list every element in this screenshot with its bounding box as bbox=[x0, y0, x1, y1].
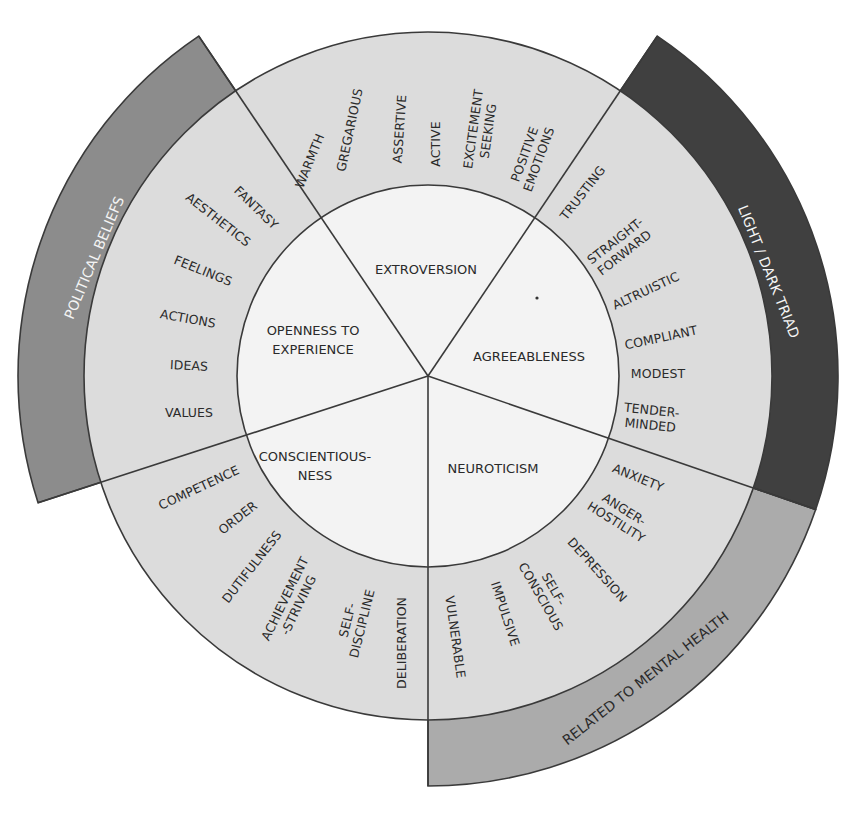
domain-label-neuroticism: NEUROTICISM bbox=[448, 461, 539, 476]
facet-label-deliberation: DELIBERATION bbox=[394, 597, 409, 689]
domain-label-extroversion: EXTROVERSION bbox=[375, 262, 477, 277]
facet-label-tender-minded: TENDER-MINDED bbox=[621, 399, 681, 435]
personality-wheel: POLITICAL BELIEFSLIGHT / DARK TRIADRELAT… bbox=[0, 0, 847, 816]
facet-label-modest: MODEST bbox=[631, 366, 686, 381]
facet-label-ideas: IDEAS bbox=[170, 357, 209, 374]
facet-label-active: ACTIVE bbox=[428, 121, 443, 166]
facet-label-values: VALUES bbox=[165, 405, 213, 420]
domain-label-agreeableness: AGREEABLENESS bbox=[473, 349, 585, 364]
stray-dot bbox=[535, 296, 538, 299]
